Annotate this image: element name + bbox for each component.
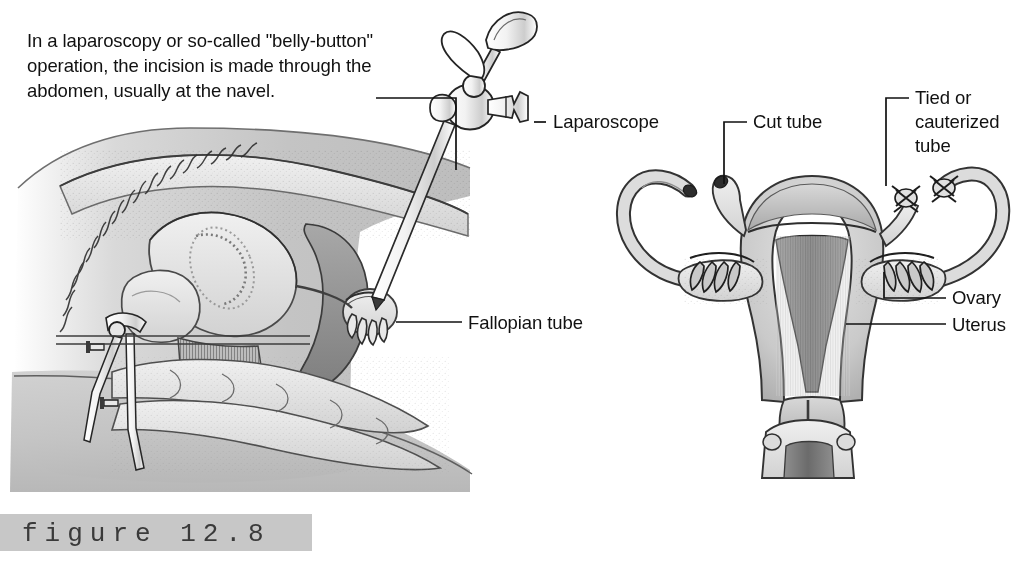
laparoscope-eyepiece [486,12,537,50]
ovary-fimbriae-sagittal [343,289,397,345]
label-fallopian-tube: Fallopian tube [468,311,583,335]
bladder-sagittal [122,270,200,342]
figure-page: In a laparoscopy or so-called "belly-but… [0,0,1029,564]
label-laparoscope: Laparoscope [553,110,659,134]
figure-number-text: figure 12.8 [22,519,271,549]
label-cut-tube: Cut tube [753,110,822,134]
right-panel-uterus-anterior [623,174,1002,478]
laparoscope-side-port [488,92,528,122]
figure-caption: In a laparoscopy or so-called "belly-but… [27,28,457,103]
label-uterus: Uterus [952,313,1006,337]
label-ovary: Ovary [952,286,1001,310]
intestinal-loops [110,356,450,474]
label-tied-or-cauterized-tube: Tied or cauterized tube [915,86,1019,158]
leader-cut-tube [724,122,747,184]
leader-tied-tube [886,98,909,186]
distal-suture-knot [930,176,958,202]
